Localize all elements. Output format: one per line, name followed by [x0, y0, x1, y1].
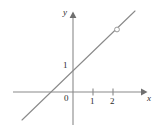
origin-label: 0 — [64, 94, 69, 103]
coordinate-plane-svg — [0, 0, 162, 132]
x-axis-label: x — [147, 94, 151, 103]
y-axis-arrow-icon — [70, 12, 77, 19]
y-tick-label-1: 1 — [63, 61, 68, 70]
line-graph-figure: y x 0 1 2 1 — [0, 0, 162, 132]
point-marker-icon — [115, 27, 120, 32]
y-axis-label: y — [63, 8, 67, 17]
x-tick-label-2: 2 — [110, 97, 115, 106]
x-tick-label-1: 1 — [90, 97, 95, 106]
